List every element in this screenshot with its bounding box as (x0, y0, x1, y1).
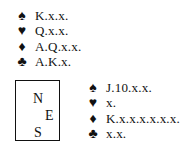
north-diamonds-row: ♦ A.Q.x.x. (15, 39, 81, 55)
north-spades-cards: K.x.x. (35, 9, 68, 23)
east-clubs-row: ♣ x.x. (86, 127, 180, 143)
heart-icon: ♥ (86, 96, 100, 110)
east-diamonds-row: ♦ K.x.x.x.x.x.x. (86, 111, 180, 127)
east-hearts-cards: x. (106, 96, 116, 110)
east-clubs-cards: x.x. (106, 127, 126, 141)
north-diamonds-cards: A.Q.x.x. (35, 40, 81, 54)
east-diamonds-cards: K.x.x.x.x.x.x. (106, 112, 180, 126)
diamond-icon: ♦ (15, 40, 29, 54)
north-hearts-cards: Q.x.x. (35, 24, 68, 38)
heart-icon: ♥ (15, 24, 29, 38)
compass-north-label: N (33, 92, 43, 106)
east-spades-cards: J.10.x.x. (106, 81, 152, 95)
north-clubs-cards: A.K.x. (35, 55, 71, 69)
east-spades-row: ♠ J.10.x.x. (86, 80, 180, 96)
compass-box: N E S (15, 80, 60, 141)
north-clubs-row: ♣ A.K.x. (15, 55, 81, 71)
east-hand: ♠ J.10.x.x. ♥ x. ♦ K.x.x.x.x.x.x. ♣ x.x. (86, 80, 180, 142)
compass-south-label: S (34, 126, 42, 140)
club-icon: ♣ (15, 55, 29, 69)
spade-icon: ♠ (15, 9, 29, 23)
compass-east-label: E (45, 109, 54, 123)
north-hearts-row: ♥ Q.x.x. (15, 24, 81, 40)
club-icon: ♣ (86, 127, 100, 141)
diamond-icon: ♦ (86, 112, 100, 126)
spade-icon: ♠ (86, 81, 100, 95)
east-hearts-row: ♥ x. (86, 96, 180, 112)
north-spades-row: ♠ K.x.x. (15, 8, 81, 24)
north-hand: ♠ K.x.x. ♥ Q.x.x. ♦ A.Q.x.x. ♣ A.K.x. (15, 8, 81, 70)
